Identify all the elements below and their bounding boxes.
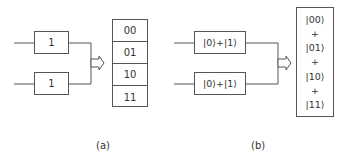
plus-sign: + xyxy=(311,56,319,67)
state-term: |00⟩ xyxy=(306,14,325,25)
qubit-box-1: |0⟩+|1⟩ xyxy=(194,31,246,54)
panel-a-label: (a) xyxy=(96,140,110,151)
bit-value: 1 xyxy=(48,78,54,89)
plus-sign: + xyxy=(311,85,319,96)
bit-value: 1 xyxy=(48,37,54,48)
state-term: |01⟩ xyxy=(306,42,325,53)
classical-bit-box-1: 1 xyxy=(34,31,69,54)
state-cell: 01 xyxy=(113,42,147,64)
state-term: |11⟩ xyxy=(306,99,325,110)
superposition-states-box: |00⟩ + |01⟩ + |10⟩ + |11⟩ xyxy=(296,7,334,117)
state-cell: 10 xyxy=(113,64,147,86)
plus-sign: + xyxy=(311,28,319,39)
qubit-state: |0⟩+|1⟩ xyxy=(203,37,237,48)
qubit-state: |0⟩+|1⟩ xyxy=(203,78,237,89)
classical-bit-box-2: 1 xyxy=(34,72,69,95)
qubit-box-2: |0⟩+|1⟩ xyxy=(194,72,246,95)
state-cell: 11 xyxy=(113,86,147,108)
panel-b-label: (b) xyxy=(251,140,265,151)
classical-states-table: 00 01 10 11 xyxy=(112,19,148,107)
state-term: |10⟩ xyxy=(306,71,325,82)
state-cell: 00 xyxy=(113,20,147,42)
